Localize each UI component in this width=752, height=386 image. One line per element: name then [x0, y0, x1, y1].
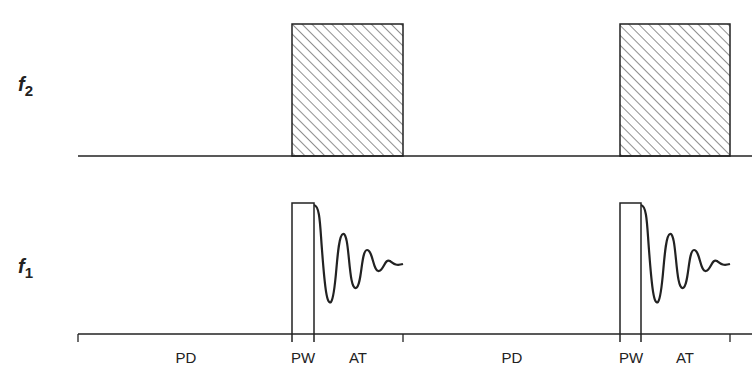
decoupler-block-1 [292, 24, 403, 156]
label-pd: PD [502, 349, 523, 366]
label-pw: PW [291, 349, 316, 366]
pulse-sequence-diagram: f2 f1 PD PW AT PD PW AT [0, 0, 752, 386]
f2-channel [78, 24, 752, 156]
rf-pulse-2 [620, 203, 641, 342]
label-pd: PD [176, 349, 197, 366]
fid-2 [641, 205, 730, 302]
label-at: AT [349, 349, 367, 366]
rf-pulse-1 [292, 203, 314, 342]
time-labels: PD PW AT PD PW AT [176, 349, 694, 366]
decoupler-block-2 [620, 24, 730, 156]
f1-channel [78, 203, 752, 342]
channel-label-f1: f1 [18, 255, 33, 281]
channel-label-f2: f2 [18, 73, 33, 99]
label-at: AT [676, 349, 694, 366]
fid-1 [314, 205, 403, 302]
label-pw: PW [619, 349, 644, 366]
